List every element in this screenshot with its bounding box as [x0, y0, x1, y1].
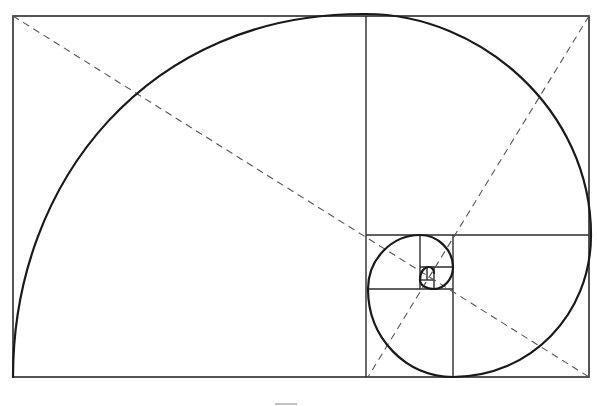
golden-spiral-figure	[0, 0, 597, 406]
figure-caption-cropped	[275, 400, 335, 406]
diagonal-dashed-line	[368, 16, 589, 377]
dashed-diagonals	[13, 16, 589, 377]
diagonal-dashed-line	[13, 16, 589, 377]
golden-spiral-curve	[13, 14, 591, 377]
caption-fragment	[275, 403, 297, 405]
